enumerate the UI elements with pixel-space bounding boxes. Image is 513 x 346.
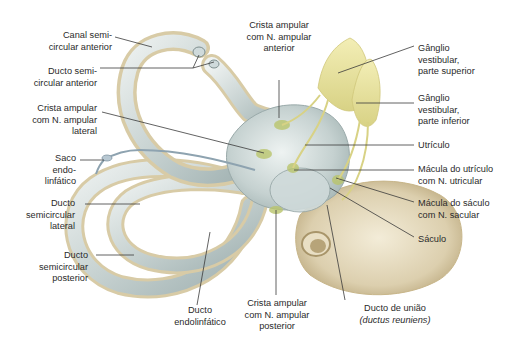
label-ducto-semicircular-posterior: Ducto semicircular posterior [39,250,88,285]
label-ducto-de-uniao: Ducto de união (ductus reuniens) [345,303,445,326]
label-crista-ampular-anterior: Crista ampular com N. ampular anterior [234,20,324,55]
label-ganglio-superior: Gânglio vestibular, parte superior [418,43,475,78]
label-crista-ampular-lateral: Crista ampular com N. ampular lateral [32,103,97,138]
label-utriculo: Utrículo [418,140,450,152]
label-saculo: Sáculo [418,234,446,246]
inner-ear-diagram: Canal semi- circular anterior Ducto semi… [0,0,513,346]
label-ganglio-inferior: Gânglio vestibular, parte inferior [418,93,470,128]
label-crista-ampular-posterior: Crista ampular com N. ampular posterior [232,298,322,333]
label-macula-utriculo: Mácula do utrículo com N. utricular [418,164,493,187]
label-macula-saculo: Mácula do sáculo com N. sacular [418,198,490,221]
saccule [270,168,330,212]
label-ducto-semicircular-lateral: Ducto semicircular lateral [26,198,75,233]
label-saco-endolinfatico: Saco endo- linfático [45,153,76,188]
label-ducto-semicircular-anterior: Ducto semi- circular anterior [34,66,97,89]
label-ducto-endolinfatico: Ducto endolinfático [160,305,240,328]
label-canal-semicircular-anterior: Canal semi- circular anterior [49,30,112,53]
